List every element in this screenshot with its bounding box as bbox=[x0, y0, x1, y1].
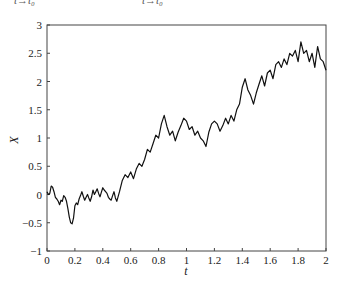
x-tick-label: 2 bbox=[323, 254, 329, 266]
y-axis-label: X bbox=[7, 136, 21, 145]
x-tick-label: 0 bbox=[44, 254, 50, 266]
y-tick-label: 1 bbox=[37, 132, 43, 144]
x-tick-label: 0.4 bbox=[96, 254, 110, 266]
x-tick-label: 1.4 bbox=[235, 254, 249, 266]
x-tick-label: 0.6 bbox=[124, 254, 138, 266]
y-tick-label: 2.5 bbox=[28, 47, 42, 59]
x-tick-label: 1.2 bbox=[208, 254, 222, 266]
x-tick-label: 0.8 bbox=[152, 254, 166, 266]
data-line bbox=[47, 42, 326, 224]
x-tick-label: 0.2 bbox=[68, 254, 82, 266]
x-axis-label: t bbox=[184, 264, 188, 278]
y-axis-ticks: −1−0.500.511.522.53 bbox=[22, 19, 50, 257]
y-tick-label: −0.5 bbox=[22, 217, 42, 229]
y-tick-label: 1.5 bbox=[28, 104, 42, 116]
x-tick-label: 1.6 bbox=[263, 254, 277, 266]
line-chart: −1−0.500.511.522.53 00.20.40.60.811.21.4… bbox=[0, 0, 343, 290]
y-tick-label: 3 bbox=[37, 19, 43, 31]
y-tick-label: −1 bbox=[30, 245, 42, 257]
y-tick-label: 2 bbox=[37, 76, 43, 88]
y-tick-label: 0.5 bbox=[28, 160, 42, 172]
x-tick-label: 1.8 bbox=[291, 254, 305, 266]
y-tick-label: 0 bbox=[37, 189, 43, 201]
